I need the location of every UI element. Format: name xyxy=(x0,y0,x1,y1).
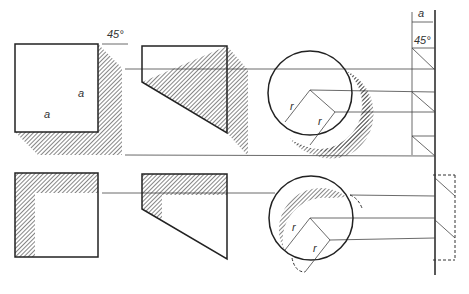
radius-label-bottom-2: r xyxy=(313,242,318,254)
dim-a-right-label: a xyxy=(78,87,84,99)
square-cast-shadow: 45° a a xyxy=(15,28,128,155)
trapezoid-cast-shadow xyxy=(142,46,248,156)
angle-label-cube: 45° xyxy=(107,28,124,40)
dim-a-label: a xyxy=(418,7,424,19)
square-inner-shadow xyxy=(15,173,98,257)
trapezoid-inner-shadow xyxy=(142,174,227,259)
radius-label-top-2: r xyxy=(318,115,323,127)
side-view: a 45° xyxy=(412,7,455,275)
shadow-construction-diagram: a 45° 45° a a xyxy=(0,0,469,294)
angle-label-side: 45° xyxy=(414,34,431,46)
circle-inner-shadow: r r xyxy=(269,176,362,272)
dim-a-bottom-label: a xyxy=(44,108,50,120)
circle-cast-shadow: r r xyxy=(268,51,374,159)
radius-label-bottom-1: r xyxy=(292,221,297,233)
